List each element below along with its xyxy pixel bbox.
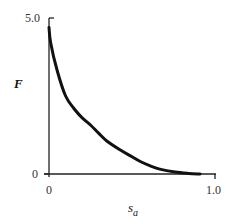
x-tick-label-max: 1.0	[206, 184, 221, 196]
chart-plot	[0, 0, 234, 224]
x-tick-label-zero: 0	[46, 184, 52, 196]
data-curve	[49, 27, 200, 174]
x-axis-title-subscript: a	[133, 207, 138, 218]
y-axis-title: F	[14, 76, 23, 92]
x-axis-title: sa	[128, 200, 138, 218]
y-tick-label-zero: 0	[32, 168, 38, 180]
y-tick-label-max: 5.0	[25, 12, 40, 24]
